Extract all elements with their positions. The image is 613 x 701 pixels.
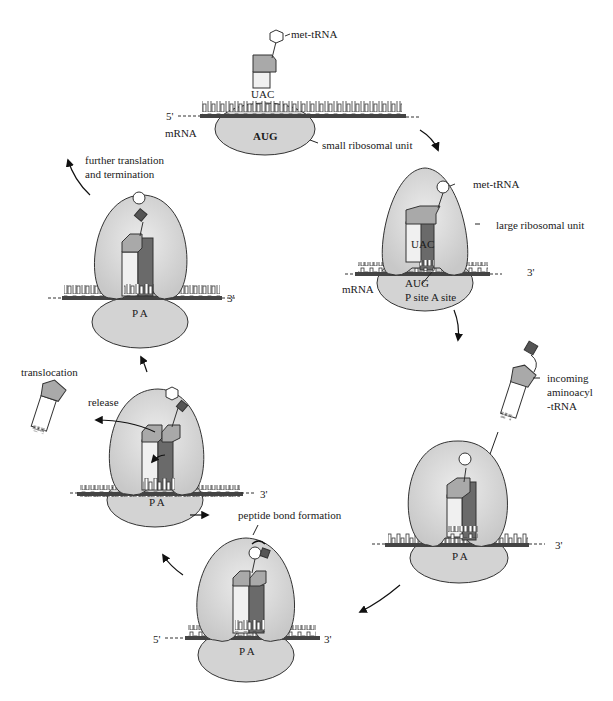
- label-p-a-4: P A: [239, 645, 255, 657]
- methionine-icon: [437, 181, 449, 193]
- label-codon-2: AUG: [405, 277, 429, 289]
- cycle-arrow-5: [141, 357, 147, 372]
- label-three-prime-4: 3': [324, 633, 331, 645]
- label-mrna-2: mRNA: [342, 283, 374, 295]
- label-three-prime-3: 3': [555, 539, 562, 551]
- label-three-prime-6: 3': [227, 292, 234, 304]
- stage-elongation-continues: [48, 160, 235, 348]
- label-incoming-3: -tRNA: [547, 400, 577, 412]
- label-three-prime-2: 3': [527, 266, 534, 278]
- label-mrna-1: mRNA: [165, 127, 197, 139]
- cycle-arrow-3: [360, 585, 400, 612]
- amino-acid-icon: [524, 341, 538, 355]
- cycle-arrow-4: [163, 555, 183, 575]
- label-met-trna-1: met-tRNA: [291, 28, 337, 40]
- label-release: release: [88, 396, 119, 408]
- label-further-1: further translation: [85, 154, 164, 166]
- label-p-a-5: P A: [149, 496, 165, 508]
- stage-initiation: [178, 30, 438, 155]
- label-met-trna-2: met-tRNA: [473, 178, 519, 190]
- label-p-a-6: P A: [132, 307, 148, 319]
- label-five-prime-1: 5': [166, 110, 173, 122]
- stage-aminoacyl-entry: [360, 341, 545, 612]
- diagram-canvas: [0, 0, 613, 701]
- mrna-strand: [200, 114, 406, 118]
- cycle-arrow-1: [420, 130, 438, 150]
- label-further-2: and termination: [85, 168, 154, 180]
- label-codon-1: AUG: [253, 130, 277, 142]
- stage-large-subunit-joins: [345, 168, 502, 340]
- methionine-icon: [270, 30, 283, 43]
- cycle-arrow-2: [454, 310, 459, 340]
- label-small-subunit: small ribosomal unit: [322, 139, 412, 151]
- stage-peptide-bond: [163, 525, 320, 682]
- label-incoming-1: incoming: [547, 372, 589, 384]
- label-large-subunit: large ribosomal unit: [496, 219, 584, 231]
- mrna-bases: [202, 101, 402, 115]
- translation-cycle-diagram: met-tRNA UAC 5' mRNA AUG small ribosomal…: [0, 0, 613, 701]
- label-anticodon-2: UAC: [411, 238, 434, 250]
- label-incoming-2: aminoacyl: [547, 386, 593, 398]
- label-peptide-bond: peptide bond formation: [238, 509, 341, 521]
- stage-translocation: [28, 357, 255, 527]
- label-translocation: translocation: [21, 366, 78, 378]
- label-three-prime-5: 3': [260, 488, 267, 500]
- label-p-a-sites-2: P site A site: [405, 291, 456, 303]
- label-five-prime-4: 5': [153, 633, 160, 645]
- label-p-a-3: P A: [452, 550, 468, 562]
- label-anticodon-1: UAC: [251, 88, 274, 100]
